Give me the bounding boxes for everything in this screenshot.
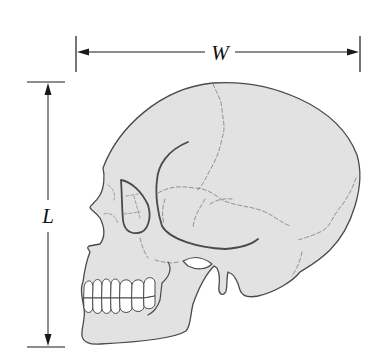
- tooth: [93, 298, 102, 314]
- tooth: [84, 298, 93, 313]
- tooth: [120, 280, 132, 298]
- width-right-arrowhead-icon: [347, 49, 359, 56]
- length-top-arrowhead-icon: [45, 83, 52, 95]
- length-label: L: [41, 204, 54, 228]
- tooth: [132, 280, 144, 298]
- skull-diagram: W L: [0, 0, 376, 353]
- tooth: [102, 279, 111, 298]
- tooth: [102, 298, 111, 314]
- tooth: [144, 278, 155, 298]
- tooth: [84, 281, 93, 298]
- tooth: [93, 279, 102, 298]
- width-label: W: [211, 41, 231, 65]
- tooth: [111, 279, 120, 298]
- skull: [81, 83, 359, 345]
- tooth: [111, 298, 120, 314]
- length-bottom-arrowhead-icon: [45, 334, 52, 346]
- tooth: [144, 296, 155, 309]
- tooth: [120, 298, 132, 313]
- width-left-arrowhead-icon: [77, 49, 89, 56]
- tooth: [132, 298, 144, 312]
